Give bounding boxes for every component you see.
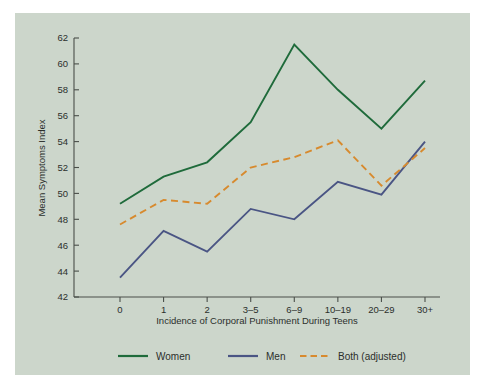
data-series-group (120, 44, 425, 277)
y-tick-label-50: 50 (57, 188, 68, 199)
y-tick-label-60: 60 (57, 58, 68, 69)
x-axis-title: Incidence of Corporal Punishment During … (156, 315, 358, 326)
series-line-both-adjusted (120, 140, 425, 224)
x-tick-label-4: 6–9 (286, 304, 302, 315)
y-tick-label-44: 44 (57, 266, 68, 277)
x-tick-label-1: 1 (161, 304, 166, 315)
x-tick-label-7: 30+ (417, 304, 434, 315)
legend-label-1: Men (266, 351, 285, 362)
x-tick-label-6: 20–29 (368, 304, 394, 315)
y-axis-ticks: 4244464850525456586062 (57, 32, 79, 302)
legend-label-0: Women (156, 351, 190, 362)
x-tick-label-3: 3–5 (243, 304, 259, 315)
chart-figure: 4244464850525456586062 0123–56–910–1920–… (0, 0, 485, 388)
y-tick-label-46: 46 (57, 240, 68, 251)
chart-legend: WomenMenBoth (adjusted) (118, 351, 406, 362)
x-tick-label-0: 0 (117, 304, 122, 315)
y-tick-label-54: 54 (57, 136, 68, 147)
y-tick-label-62: 62 (57, 32, 68, 43)
x-tick-label-5: 10–19 (325, 304, 351, 315)
y-tick-label-52: 52 (57, 162, 68, 173)
series-line-women (120, 44, 425, 203)
x-tick-label-2: 2 (204, 304, 209, 315)
y-tick-label-42: 42 (57, 291, 68, 302)
y-tick-label-56: 56 (57, 110, 68, 121)
x-axis-ticks: 0123–56–910–1920–2930+ (117, 297, 433, 315)
y-tick-label-58: 58 (57, 84, 68, 95)
y-tick-label-48: 48 (57, 214, 68, 225)
axes-group (74, 38, 440, 297)
y-axis-title: Mean Symptoms Index (36, 119, 47, 216)
legend-label-2: Both (adjusted) (338, 351, 406, 362)
line-chart: 4244464850525456586062 0123–56–910–1920–… (0, 0, 485, 388)
